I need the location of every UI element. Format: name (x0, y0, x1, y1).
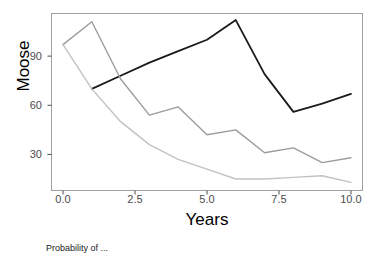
chart-container: Moose 90 60 30 0.0 2.5 5.0 7.5 10.0 Year… (0, 0, 376, 255)
plot-area (0, 0, 376, 255)
